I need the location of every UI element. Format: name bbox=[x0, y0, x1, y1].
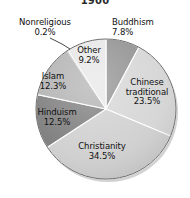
slice-label-christianity: Christianity 34.5% bbox=[62, 142, 142, 161]
pie-chart-figure: 1900 No bbox=[0, 0, 190, 198]
slice-label-buddhism-value: 7.8% bbox=[112, 28, 186, 38]
slice-label-buddhism: Buddhism 7.8% bbox=[112, 18, 186, 37]
slice-label-other: Other 9.2% bbox=[64, 46, 114, 65]
slice-label-other-value: 9.2% bbox=[64, 56, 114, 66]
slice-label-hinduism: Hinduism 12.5% bbox=[26, 108, 88, 127]
slice-label-nonreligious: Nonreligious 0.2% bbox=[2, 18, 88, 37]
slice-label-islam-value: 12.3% bbox=[28, 82, 78, 92]
slice-label-hinduism-value: 12.5% bbox=[26, 118, 88, 128]
slice-label-chinese-traditional-value: 23.5% bbox=[114, 97, 180, 107]
slice-label-christianity-value: 34.5% bbox=[62, 152, 142, 162]
slice-label-islam: Islam 12.3% bbox=[28, 72, 78, 91]
slice-label-chinese-traditional: Chinese traditional 23.5% bbox=[114, 78, 180, 107]
slice-label-nonreligious-value: 0.2% bbox=[2, 28, 88, 38]
